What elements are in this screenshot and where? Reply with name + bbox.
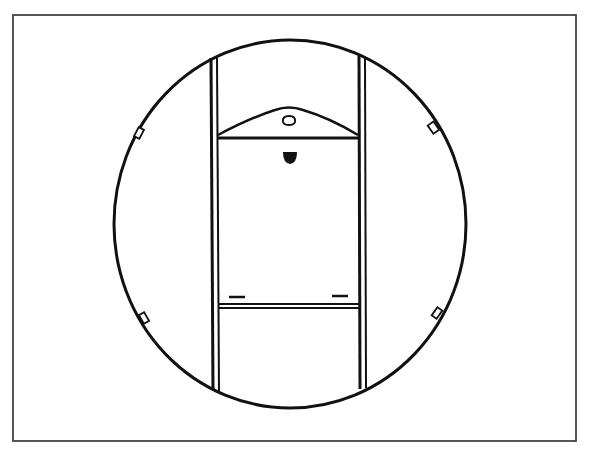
round-panel xyxy=(114,40,466,408)
notch-icon xyxy=(283,152,297,164)
keyhole-icon xyxy=(283,116,295,125)
outer-frame xyxy=(13,15,576,441)
left-mounting-rail xyxy=(211,58,219,391)
right-mounting-rail xyxy=(359,56,366,389)
clip-left-top xyxy=(134,127,144,139)
bottom-crossbar xyxy=(219,304,359,308)
hanging-bracket xyxy=(218,108,358,136)
diagram-figure xyxy=(0,0,590,453)
